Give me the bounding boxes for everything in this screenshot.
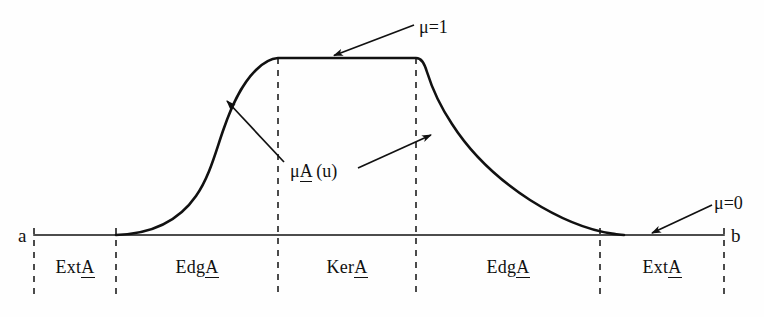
mua-left-arrow [227, 101, 284, 162]
region-edg-right-prefix: Edg [486, 257, 516, 277]
region-ext-right-set: A [668, 257, 681, 278]
region-edg-left-prefix: Edg [175, 257, 205, 277]
mua-right-arrow [358, 135, 431, 168]
membership-function-label: μA (u) [290, 162, 337, 180]
region-ext-right: ExtA [642, 258, 681, 276]
region-ext-left-prefix: Ext [55, 257, 81, 277]
mu-equals-zero-label: μ=0 [714, 194, 743, 212]
region-ker: KerA [326, 258, 367, 276]
mu-equals-one-label: μ=1 [419, 18, 448, 36]
region-ker-set: A [354, 257, 367, 278]
region-divider-lines [34, 58, 724, 295]
annotation-arrows [227, 25, 712, 233]
region-ext-left-set: A [81, 257, 94, 278]
mu-zero-arrow [652, 205, 712, 233]
region-ext-left: ExtA [55, 258, 94, 276]
membership-function-suffix: (u) [312, 161, 338, 181]
membership-function-set: A [300, 161, 312, 182]
region-edg-right-set: A [516, 257, 529, 278]
region-ker-prefix: Ker [326, 257, 354, 277]
membership-function-prefix: μ [290, 161, 300, 181]
region-edg-left-set: A [205, 257, 218, 278]
axis-right-endpoint-label: b [731, 226, 741, 245]
membership-curve [116, 58, 624, 235]
axis-left-endpoint-label: a [18, 226, 26, 245]
figure-container: a b μ=1 μ=0 μA (u) ExtAEdgAKerAEdgAExtA [0, 0, 764, 317]
region-edg-right: EdgA [486, 258, 529, 276]
region-ext-right-prefix: Ext [642, 257, 668, 277]
mu-one-arrow [334, 25, 414, 56]
region-edg-left: EdgA [175, 258, 218, 276]
